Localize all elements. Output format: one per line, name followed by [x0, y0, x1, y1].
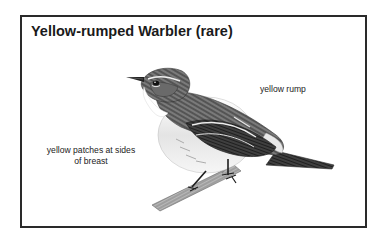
species-title: Yellow-rumped Warbler (rare)	[31, 23, 233, 39]
eye	[153, 80, 159, 85]
warbler-illustration	[126, 55, 346, 215]
species-card: Yellow-rumped Warbler (rare) yellow rump…	[20, 15, 367, 228]
